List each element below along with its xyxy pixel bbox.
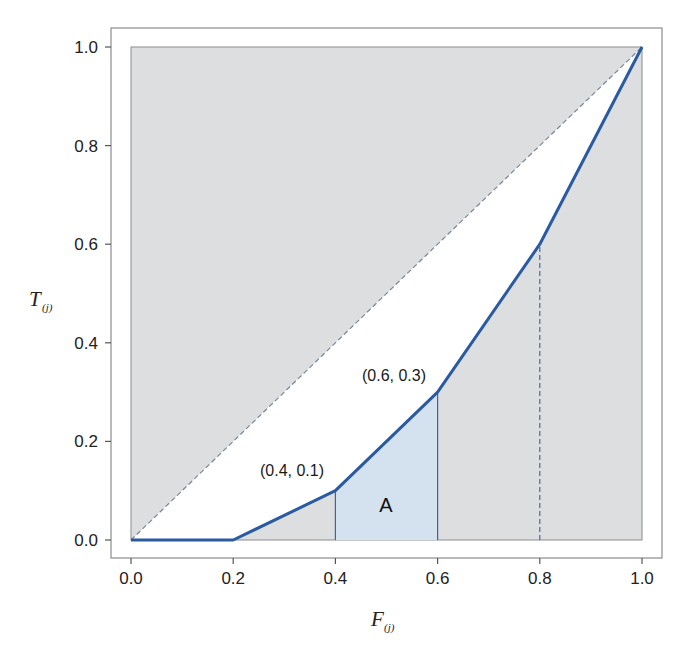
lorenz-curve-chart: 0.0 0.2 0.4 0.6 0.8 1.0 0.0 0.2 0.4 0.6 … xyxy=(0,0,695,647)
y-axis-tick-labels: 0.0 0.2 0.4 0.6 0.8 1.0 xyxy=(74,38,98,550)
x-axis-title: F (j) xyxy=(370,607,395,634)
x-axis-label-subscript: (j) xyxy=(384,621,395,634)
y-tick-label: 0.2 xyxy=(74,432,98,451)
region-a-label: A xyxy=(379,494,393,516)
x-tick-label: 0.8 xyxy=(528,569,552,588)
x-axis xyxy=(131,558,642,564)
point-label-0.6-0.3: (0.6, 0.3) xyxy=(362,367,426,384)
y-axis-label: T xyxy=(29,287,42,311)
x-tick-label: 0.2 xyxy=(221,569,245,588)
y-tick-label: 0.8 xyxy=(74,137,98,156)
y-axis-label-subscript: (j) xyxy=(42,301,53,314)
x-axis-tick-labels: 0.0 0.2 0.4 0.6 0.8 1.0 xyxy=(119,569,654,588)
y-tick-label: 0.0 xyxy=(74,531,98,550)
x-tick-label: 1.0 xyxy=(630,569,654,588)
y-axis xyxy=(105,47,111,540)
x-tick-label: 0.6 xyxy=(426,569,450,588)
y-axis-title: T (j) xyxy=(29,287,53,314)
y-tick-label: 0.6 xyxy=(74,235,98,254)
x-tick-label: 0.0 xyxy=(119,569,143,588)
y-tick-label: 0.4 xyxy=(74,334,98,353)
x-axis-label: F xyxy=(370,607,384,631)
y-tick-label: 1.0 xyxy=(74,38,98,57)
x-tick-label: 0.4 xyxy=(324,569,348,588)
point-label-0.4-0.1: (0.4, 0.1) xyxy=(260,462,324,479)
